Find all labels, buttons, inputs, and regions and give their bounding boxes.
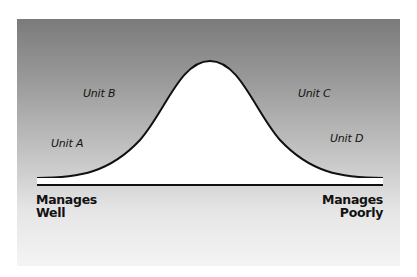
- unit-c-label: Unit C: [298, 87, 330, 100]
- unit-d-label: Unit D: [330, 132, 363, 145]
- unit-a-label: Unit A: [51, 137, 83, 150]
- manages-poorly-label: Manages Poorly: [322, 193, 383, 219]
- unit-b-label: Unit B: [83, 87, 115, 100]
- manages-well-label: Manages Well: [36, 193, 97, 219]
- manages-well-line2: Well: [36, 206, 97, 219]
- bell-curve: [37, 61, 383, 178]
- white-fill-under-curve: [37, 178, 383, 184]
- manages-poorly-line2: Poorly: [322, 206, 383, 219]
